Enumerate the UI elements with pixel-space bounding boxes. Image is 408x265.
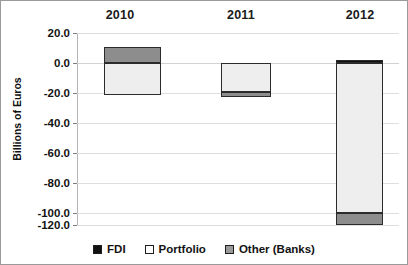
- tick-mark-0: [73, 63, 77, 64]
- bar-segment-2010-other[interactable]: [104, 47, 161, 64]
- bar-segment-2012-other[interactable]: [336, 213, 383, 225]
- y-tick-label-m80: -80.0: [44, 177, 70, 189]
- tick-mark-m60: [73, 153, 77, 154]
- category-label-2012: 2012: [325, 8, 395, 22]
- bar-segment-2010-portfolio[interactable]: [104, 63, 161, 95]
- y-tick-label-m60: -60.0: [44, 147, 70, 159]
- bar-segment-2011-portfolio[interactable]: [221, 63, 271, 92]
- tick-mark-20: [73, 33, 77, 34]
- y-tick-label-20: 20.0: [48, 27, 70, 39]
- legend-label-portfolio: Portfolio: [159, 243, 206, 255]
- bar-segment-2011-other[interactable]: [221, 92, 271, 97]
- tick-mark-m80: [73, 183, 77, 184]
- legend-swatch-portfolio-icon: [145, 245, 154, 254]
- gridline-m120: -120.0: [77, 225, 399, 226]
- legend-item-fdi[interactable]: FDI: [93, 243, 126, 255]
- bar-group-2011[interactable]: [221, 33, 271, 225]
- legend-label-other: Other (Banks): [239, 243, 315, 255]
- tick-mark-m100: [73, 213, 77, 214]
- legend-item-other[interactable]: Other (Banks): [225, 243, 315, 255]
- category-label-2010: 2010: [85, 8, 155, 22]
- legend-swatch-other-icon: [225, 245, 234, 254]
- y-tick-label-0: 0.0: [54, 57, 70, 69]
- bar-group-2012[interactable]: [336, 33, 383, 225]
- bar-group-2010[interactable]: [104, 33, 161, 225]
- category-label-2011: 2011: [206, 8, 276, 22]
- y-tick-label-m20: -20.0: [44, 87, 70, 99]
- y-tick-label-m100: -100.0: [37, 207, 70, 219]
- category-label-row: 2010 2011 2012: [85, 8, 405, 28]
- y-axis-title: Billions of Euros: [11, 59, 23, 179]
- y-tick-label-m40: -40.0: [44, 117, 70, 129]
- tick-mark-m40: [73, 123, 77, 124]
- y-tick-label-m120: -120.0: [37, 219, 70, 231]
- plot-area: 20.0 0.0 -20.0 -40.0 -60.0 -80.0 -100.0 …: [77, 33, 399, 225]
- y-axis-line: [77, 33, 78, 225]
- legend-label-fdi: FDI: [107, 243, 126, 255]
- tick-mark-m20: [73, 93, 77, 94]
- tick-mark-m120: [73, 225, 77, 226]
- chart-container: 2010 2011 2012 Billions of Euros 20.0 0.…: [0, 0, 408, 265]
- chart-legend: FDI Portfolio Other (Banks): [1, 243, 407, 255]
- legend-item-portfolio[interactable]: Portfolio: [145, 243, 206, 255]
- bar-segment-2012-portfolio[interactable]: [336, 63, 383, 213]
- legend-swatch-fdi-icon: [93, 245, 102, 254]
